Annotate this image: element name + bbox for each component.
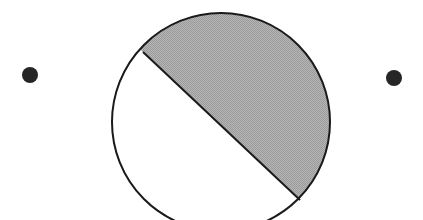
figure-canvas — [0, 0, 423, 220]
left-dot — [22, 67, 38, 83]
figure-svg — [0, 0, 423, 220]
right-dot — [386, 70, 402, 86]
